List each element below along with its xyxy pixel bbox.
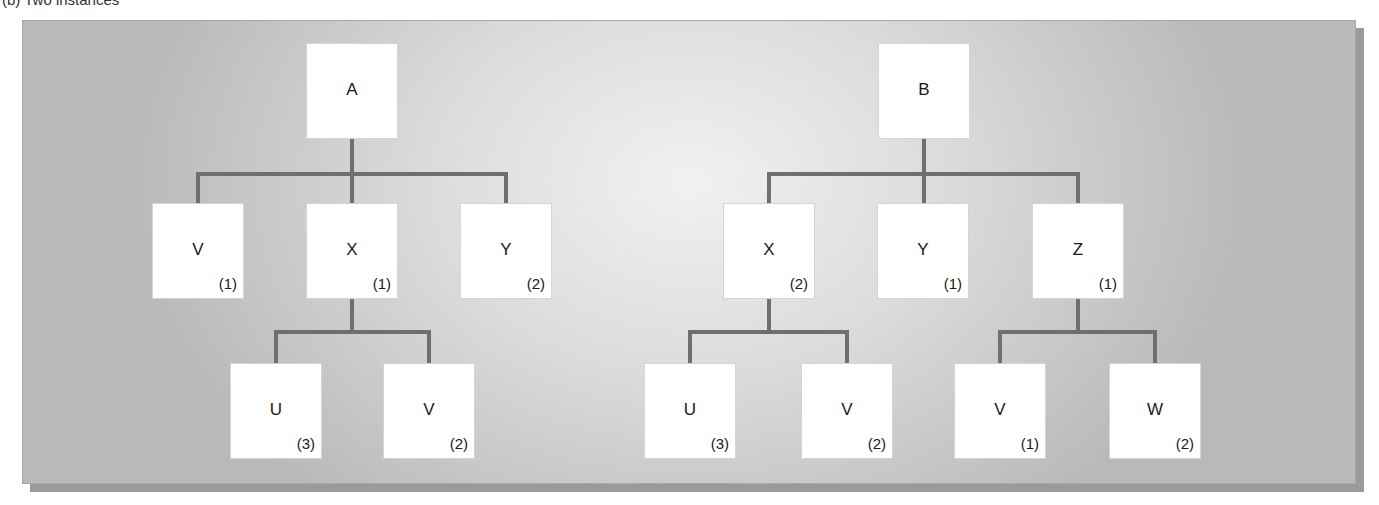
tree-a-root-connector: [198, 138, 506, 204]
node-label: B: [879, 80, 969, 100]
tree-a-node-v2: V (2): [384, 364, 474, 458]
tree-a-node-x: X (1): [307, 204, 397, 298]
node-count: (3): [711, 435, 729, 452]
tree-b-node-z: Z (1): [1033, 204, 1123, 298]
node-count: (1): [219, 275, 237, 292]
node-label: V: [153, 240, 243, 260]
node-label: Z: [1033, 240, 1123, 260]
node-label: U: [645, 400, 735, 420]
node-count: (1): [1021, 435, 1039, 452]
tree-b-node-w: W (2): [1110, 364, 1200, 458]
tree-a-node-u: U (3): [231, 364, 321, 458]
tree-b-x-connector: [690, 298, 847, 364]
node-count: (2): [790, 275, 808, 292]
tree-a-x-connector: [276, 298, 429, 364]
node-count: (1): [944, 275, 962, 292]
tree-a-node-y: Y (2): [461, 204, 551, 298]
tree-b-root-connector: [769, 138, 1078, 204]
node-label: Y: [461, 240, 551, 260]
tree-b-z-connector: [1000, 298, 1155, 364]
node-count: (2): [450, 435, 468, 452]
node-label: U: [231, 400, 321, 420]
node-count: (3): [297, 435, 315, 452]
node-count: (2): [527, 275, 545, 292]
node-count: (2): [1176, 435, 1194, 452]
node-label: V: [955, 400, 1045, 420]
node-label: W: [1110, 400, 1200, 420]
node-label: Y: [878, 240, 968, 260]
node-count: (1): [373, 275, 391, 292]
node-label: V: [802, 400, 892, 420]
node-label: X: [724, 240, 814, 260]
tree-b-node-x: X (2): [724, 204, 814, 298]
tree-a-root-node: A: [307, 44, 397, 138]
tree-a-node-v: V (1): [153, 204, 243, 298]
tree-b-root-node: B: [879, 44, 969, 138]
tree-b-node-u: U (3): [645, 364, 735, 458]
tree-b-node-v: V (2): [802, 364, 892, 458]
tree-b-node-y: Y (1): [878, 204, 968, 298]
node-count: (2): [868, 435, 886, 452]
node-label: A: [307, 80, 397, 100]
node-label: X: [307, 240, 397, 260]
node-count: (1): [1099, 275, 1117, 292]
tree-b-node-v2: V (1): [955, 364, 1045, 458]
node-label: V: [384, 400, 474, 420]
